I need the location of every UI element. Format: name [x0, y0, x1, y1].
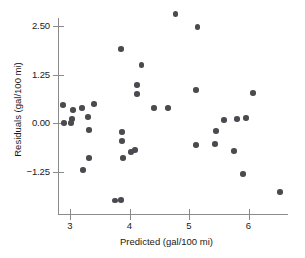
- data-point: [86, 127, 92, 133]
- data-point: [173, 11, 179, 17]
- x-tick-label: 6: [239, 221, 259, 231]
- data-point: [61, 120, 67, 126]
- data-point: [119, 138, 125, 144]
- data-point: [221, 117, 227, 123]
- residual-scatter-figure: 2.501.250.00−1.25 3456 Predicted (gal/10…: [0, 0, 305, 258]
- data-point: [120, 155, 126, 161]
- y-tick-mark: [53, 172, 64, 173]
- data-point: [231, 148, 237, 154]
- data-point: [134, 82, 140, 88]
- data-point: [118, 197, 124, 203]
- plot-area: 2.501.250.00−1.25 3456 Predicted (gal/10…: [0, 0, 305, 258]
- data-point: [68, 120, 74, 126]
- data-point: [118, 46, 124, 52]
- data-point: [193, 142, 199, 148]
- data-point: [132, 147, 138, 153]
- x-tick-label: 4: [120, 221, 140, 231]
- y-axis-line: [58, 18, 59, 215]
- data-point: [85, 114, 91, 120]
- data-point: [213, 128, 219, 134]
- y-tick-mark: [53, 75, 64, 76]
- data-point: [193, 87, 199, 93]
- data-point: [250, 90, 256, 96]
- y-tick-mark: [53, 26, 64, 27]
- data-point: [243, 115, 249, 121]
- x-tick-mark: [189, 209, 190, 220]
- data-point: [112, 198, 118, 204]
- data-point: [277, 189, 283, 195]
- data-point: [60, 102, 66, 108]
- data-point: [212, 141, 218, 147]
- data-point: [195, 24, 201, 30]
- data-point: [165, 105, 171, 111]
- data-point: [134, 91, 140, 97]
- x-axis-line: [58, 214, 288, 215]
- x-tick-mark: [130, 209, 131, 220]
- data-point: [91, 101, 97, 107]
- data-point: [234, 116, 240, 122]
- data-point: [86, 155, 92, 161]
- y-tick-label-wrap: 2.50: [14, 21, 50, 31]
- x-tick-label: 3: [60, 221, 80, 231]
- x-axis-title: Predicted (gal/100 mi): [0, 236, 305, 247]
- x-tick-label: 5: [179, 221, 199, 231]
- x-tick-mark: [70, 209, 71, 220]
- data-point: [240, 171, 246, 177]
- data-point: [139, 62, 145, 68]
- data-point: [119, 129, 125, 135]
- y-tick-label: 2.50: [16, 21, 50, 31]
- data-point: [79, 105, 85, 111]
- x-tick-mark: [249, 209, 250, 220]
- data-point: [70, 107, 76, 113]
- data-point: [151, 105, 157, 111]
- y-axis-title: Residuals (gal/100 mi): [12, 35, 23, 185]
- data-point: [80, 167, 86, 173]
